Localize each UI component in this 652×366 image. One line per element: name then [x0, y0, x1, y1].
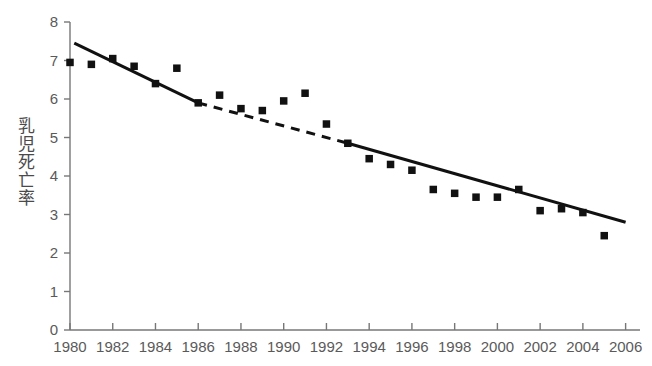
- data-point-marker: [259, 107, 267, 115]
- data-point-marker: [280, 97, 288, 105]
- infant-mortality-chart: 乳 児 死 亡 率 012345678 19801982198419861988…: [0, 0, 652, 366]
- x-axis-tick-label: 2006: [604, 339, 648, 354]
- data-point-marker: [579, 209, 587, 217]
- data-point-marker: [536, 207, 544, 215]
- x-axis-tick-label: 1994: [347, 339, 391, 354]
- data-point-marker: [152, 80, 160, 88]
- x-axis-tick-label: 2000: [475, 339, 519, 354]
- x-axis-tick-label: 1996: [390, 339, 434, 354]
- data-point-marker: [515, 186, 523, 194]
- data-point-marker: [365, 155, 373, 163]
- data-point-markers: [66, 55, 608, 240]
- x-axis-ticks: [70, 323, 626, 330]
- data-point-marker: [173, 64, 181, 72]
- data-point-marker: [494, 193, 502, 201]
- y-axis-tick-label: 8: [36, 14, 58, 29]
- data-point-marker: [130, 63, 138, 71]
- x-axis-tick-label: 2002: [518, 339, 562, 354]
- data-point-marker: [88, 61, 96, 69]
- y-axis-tick-label: 0: [36, 322, 58, 337]
- x-axis-tick-label: 1988: [219, 339, 263, 354]
- y-axis-tick-label: 5: [36, 130, 58, 145]
- data-point-marker: [301, 89, 309, 97]
- data-point-marker: [216, 91, 224, 99]
- x-axis-tick-label: 1980: [48, 339, 92, 354]
- trend-lines: [74, 43, 625, 222]
- data-point-marker: [66, 59, 74, 67]
- plot-area: [0, 0, 652, 366]
- y-axis-tick-label: 2: [36, 245, 58, 260]
- data-point-marker: [472, 193, 480, 201]
- data-point-marker: [194, 99, 202, 107]
- y-axis-tick-label: 6: [36, 91, 58, 106]
- x-axis-tick-label: 1986: [176, 339, 220, 354]
- data-point-marker: [601, 232, 609, 240]
- trend-line-solid: [74, 43, 198, 103]
- data-point-marker: [237, 105, 245, 113]
- axes: [64, 22, 640, 330]
- x-axis-tick-label: 1992: [304, 339, 348, 354]
- x-axis-tick-label: 1982: [91, 339, 135, 354]
- y-axis-tick-label: 4: [36, 168, 58, 183]
- data-point-marker: [451, 190, 459, 198]
- y-axis-ticks: [64, 22, 70, 330]
- data-point-marker: [109, 55, 117, 63]
- data-point-marker: [408, 166, 416, 174]
- x-axis-tick-label: 1998: [433, 339, 477, 354]
- y-axis-tick-label: 3: [36, 207, 58, 222]
- data-point-marker: [430, 186, 438, 194]
- data-point-marker: [387, 161, 395, 169]
- x-axis-tick-label: 1990: [262, 339, 306, 354]
- data-point-marker: [323, 120, 331, 128]
- x-axis-tick-label: 1984: [133, 339, 177, 354]
- y-axis-tick-label: 7: [36, 53, 58, 68]
- data-point-marker: [558, 205, 566, 213]
- x-axis-tick-label: 2004: [561, 339, 605, 354]
- y-axis-tick-label: 1: [36, 284, 58, 299]
- data-point-marker: [344, 140, 352, 148]
